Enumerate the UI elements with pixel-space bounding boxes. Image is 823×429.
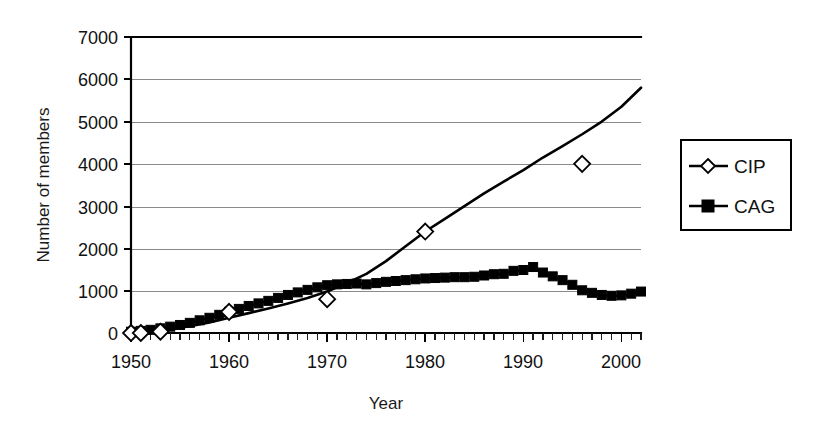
y-tick-label: 7000 — [78, 28, 118, 48]
y-tick-label: 5000 — [78, 113, 118, 133]
data-point-cag — [274, 293, 283, 302]
y-tick-label: 2000 — [78, 240, 118, 260]
data-point-cag — [421, 274, 430, 283]
data-point-cag — [617, 291, 626, 300]
data-point-cag — [597, 290, 606, 299]
y-tick-label: 4000 — [78, 155, 118, 175]
data-point-cag — [450, 273, 459, 282]
chart-canvas: 7000 6000 5000 4000 3000 2000 1000 0 195… — [0, 0, 823, 429]
data-point-cip — [574, 156, 590, 172]
data-point-cag — [578, 286, 587, 295]
data-point-cag — [440, 273, 449, 282]
data-point-cag — [587, 288, 596, 297]
data-point-cag — [480, 271, 489, 280]
data-point-cag — [489, 270, 498, 279]
data-point-cag — [627, 289, 636, 298]
y-tick-label: 3000 — [78, 198, 118, 218]
x-tick-label: 2000 — [601, 352, 641, 372]
gridlines — [131, 79, 641, 291]
data-point-cag — [538, 268, 547, 277]
data-point-cag — [411, 275, 420, 284]
x-axis-minor-ticks — [131, 333, 641, 342]
data-point-cag — [470, 272, 479, 281]
y-axis-tick-labels: 7000 6000 5000 4000 3000 2000 1000 0 — [78, 28, 118, 344]
y-tick-label: 1000 — [78, 282, 118, 302]
y-tick-label: 0 — [108, 324, 118, 344]
data-point-cag — [509, 266, 518, 275]
x-tick-label: 1960 — [209, 352, 249, 372]
data-point-cag — [244, 301, 253, 310]
chart-figure: 7000 6000 5000 4000 3000 2000 1000 0 195… — [0, 0, 823, 429]
data-point-cag — [303, 285, 312, 294]
x-tick-label: 1990 — [503, 352, 543, 372]
series-cip — [123, 88, 641, 341]
data-point-cag — [254, 299, 263, 308]
legend-label-cag: CAG — [734, 196, 775, 217]
axis-frame — [131, 37, 641, 333]
data-point-cag — [362, 280, 371, 289]
x-tick-label: 1980 — [405, 352, 445, 372]
x-axis-tick-labels: 1950 1960 1970 1980 1990 2000 — [111, 352, 641, 372]
data-point-cag — [558, 276, 567, 285]
data-point-cag — [323, 281, 332, 290]
legend-label-cip: CIP — [734, 156, 766, 177]
data-point-cag — [529, 263, 538, 272]
filled-square-icon — [702, 200, 714, 212]
y-axis-title: Number of members — [34, 108, 53, 263]
data-point-cag — [391, 276, 400, 285]
chart-legend: CIP CAG — [681, 140, 791, 230]
data-point-cag — [637, 287, 646, 296]
data-point-cag — [607, 291, 616, 300]
data-point-cag — [499, 269, 508, 278]
data-point-cag — [313, 283, 322, 292]
data-point-cag — [431, 274, 440, 283]
data-point-cag — [401, 276, 410, 285]
data-point-cag — [568, 280, 577, 289]
data-point-cag — [382, 277, 391, 286]
series-cag — [127, 263, 646, 337]
data-point-cag — [264, 296, 273, 305]
data-point-cag — [293, 288, 302, 297]
data-point-cag — [372, 279, 381, 288]
data-point-cag — [283, 290, 292, 299]
x-axis-title: Year — [369, 394, 404, 413]
y-tick-label: 6000 — [78, 70, 118, 90]
data-point-cag — [548, 272, 557, 281]
x-tick-label: 1950 — [111, 352, 151, 372]
data-point-cag — [519, 265, 528, 274]
data-point-cag — [460, 273, 469, 282]
x-tick-label: 1970 — [307, 352, 347, 372]
